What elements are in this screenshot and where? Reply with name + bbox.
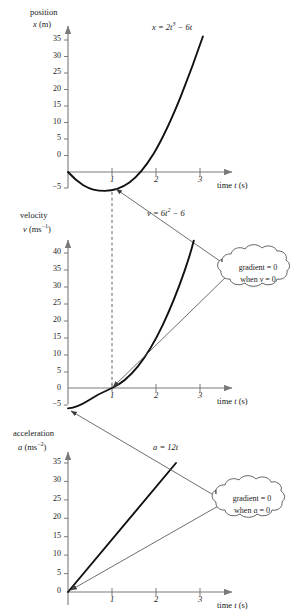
- position-xtick-1: 1: [104, 175, 120, 184]
- velocity-ytick-5: 5: [40, 367, 61, 375]
- acceleration-chart-axes: [64, 452, 232, 605]
- acceleration-x-axis-label: time t (s): [217, 601, 248, 610]
- velocity-ytick-10: 10: [40, 350, 61, 358]
- position-x-axis-prefix: time: [217, 180, 234, 190]
- callout-velocity-line2-suffix: = 0: [263, 275, 276, 284]
- position-ytick-30: 30: [40, 52, 61, 60]
- callout-velocity-line2-prefix: when: [240, 275, 259, 284]
- acceleration-xtick-3: 3: [192, 595, 208, 604]
- position-chart-title: position: [30, 8, 57, 17]
- connector-acceleration-zero: [71, 505, 220, 590]
- callout-velocity-text: gradient = 0 when v = 0: [222, 262, 294, 285]
- acceleration-ytick-35: 35: [40, 458, 61, 466]
- velocity-y-axis-unit-pre: (ms: [27, 224, 42, 234]
- velocity-ytick-30: 30: [40, 282, 61, 290]
- velocity-x-axis-label: time t (s): [217, 397, 248, 406]
- acceleration-chart-title: acceleration: [13, 429, 54, 438]
- velocity-ytick-35: 35: [40, 265, 61, 273]
- position-ytick-25: 25: [40, 68, 61, 76]
- acceleration-y-axis-unit-pre: (ms: [22, 442, 37, 452]
- position-x-axis-label: time t (s): [217, 181, 248, 190]
- velocity-curve: [68, 241, 194, 409]
- acceleration-x-axis-unit: (s): [237, 600, 248, 610]
- velocity-xtick-1: 1: [104, 391, 120, 400]
- position-curve: [68, 37, 203, 191]
- callout-acceleration-line2-suffix: = 0: [257, 506, 270, 515]
- position-ytick-35: 35: [40, 35, 61, 43]
- acceleration-x-axis-prefix: time: [217, 600, 234, 610]
- velocity-equation-label: v = 6t2 − 6: [147, 207, 185, 218]
- acceleration-equation-rel: = 12: [157, 442, 176, 452]
- acceleration-line: [68, 463, 176, 592]
- position-ytick-10: 10: [40, 118, 61, 126]
- connector-velocity-zero: [113, 275, 228, 387]
- acceleration-ytick-25: 25: [40, 495, 61, 503]
- velocity-ytick-20: 20: [40, 316, 61, 324]
- velocity-ytick-minus5: −5: [36, 400, 61, 408]
- velocity-equation-tail: − 6: [170, 208, 184, 218]
- acceleration-y-axis-label: a (ms−2): [18, 441, 46, 452]
- connector-acceleration-to-velocity-min: [71, 411, 222, 500]
- callout-acceleration-line1: gradient = 0: [216, 493, 288, 505]
- position-xtick-3: 3: [192, 175, 208, 184]
- position-ytick-20: 20: [40, 85, 61, 93]
- acceleration-ytick-20: 20: [40, 513, 61, 521]
- connector-position-min: [116, 189, 230, 268]
- acceleration-xtick-2: 2: [148, 595, 164, 604]
- velocity-chart-axes: [64, 240, 232, 405]
- velocity-x-axis-prefix: time: [217, 396, 234, 406]
- position-equation-label: x = 2t3 − 6t: [152, 21, 192, 32]
- position-ytick-5: 5: [40, 134, 61, 142]
- acceleration-ytick-0: 0: [40, 587, 61, 595]
- velocity-ytick-15: 15: [40, 333, 61, 341]
- velocity-ytick-40: 40: [40, 248, 61, 256]
- acceleration-equation-var1: t: [176, 442, 178, 452]
- velocity-equation-rel: = 6: [151, 208, 165, 218]
- position-ytick-15: 15: [40, 101, 61, 109]
- velocity-xtick-3: 3: [192, 391, 208, 400]
- velocity-xtick-2: 2: [148, 391, 164, 400]
- position-equation-tail: − 6: [175, 22, 189, 32]
- callout-velocity-line1: gradient = 0: [222, 262, 294, 274]
- callout-acceleration-text: gradient = 0 when a = 0: [216, 493, 288, 516]
- acceleration-xtick-1: 1: [104, 595, 120, 604]
- velocity-y-axis-unit-post: ): [48, 224, 51, 234]
- callout-acceleration-line2: when a = 0: [216, 505, 288, 517]
- acceleration-ytick-10: 10: [40, 550, 61, 558]
- position-y-axis-unit: (m): [37, 19, 51, 29]
- position-ytick-0: 0: [40, 151, 61, 159]
- position-y-axis-label: x (m): [33, 20, 51, 29]
- acceleration-ytick-5: 5: [40, 569, 61, 577]
- acceleration-y-axis-unit-post: ): [44, 442, 47, 452]
- callout-velocity-line2: when v = 0: [222, 274, 294, 286]
- velocity-ytick-25: 25: [40, 299, 61, 307]
- position-equation-var2: t: [190, 22, 192, 32]
- acceleration-ytick-15: 15: [40, 532, 61, 540]
- acceleration-ytick-30: 30: [40, 476, 61, 484]
- acceleration-equation-label: a = 12t: [153, 443, 178, 452]
- position-x-axis-unit: (s): [237, 180, 248, 190]
- velocity-chart-title: velocity: [20, 211, 47, 220]
- position-xtick-2: 2: [148, 175, 164, 184]
- position-equation-rel: = 2: [156, 22, 170, 32]
- callout-acceleration-line2-prefix: when: [234, 506, 253, 515]
- velocity-y-axis-label: v (ms−1): [23, 223, 51, 234]
- velocity-ytick-0: 0: [40, 384, 61, 392]
- velocity-x-axis-unit: (s): [237, 396, 248, 406]
- kinematics-figure: position x (m) 35 30 25 20 15 10 5 0 −5 …: [0, 0, 295, 613]
- position-ytick-minus5: −5: [36, 183, 61, 191]
